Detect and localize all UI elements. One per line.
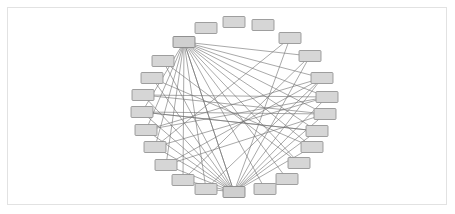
graph-node[interactable] [195, 23, 217, 34]
graph-node[interactable] [254, 184, 276, 195]
circular-graph [0, 0, 455, 214]
graph-edge [154, 96, 314, 113]
graph-node-rect[interactable] [299, 51, 321, 62]
graph-node-rect[interactable] [252, 20, 274, 31]
graph-node-rect[interactable] [195, 184, 217, 195]
graph-node[interactable] [195, 184, 217, 195]
graph-node[interactable] [173, 37, 195, 48]
graph-edge [217, 190, 223, 191]
graph-node-rect[interactable] [288, 158, 310, 169]
graph-node[interactable] [276, 174, 298, 185]
graph-node-rect[interactable] [195, 23, 217, 34]
graph-node-rect[interactable] [306, 126, 328, 137]
diagram-canvas [0, 0, 455, 214]
graph-node-hub-rect[interactable] [173, 37, 195, 48]
graph-node[interactable] [223, 187, 245, 198]
graph-node[interactable] [172, 175, 194, 186]
graph-node-rect[interactable] [276, 174, 298, 185]
graph-node-rect[interactable] [223, 17, 245, 28]
graph-node[interactable] [152, 56, 174, 67]
graph-node-rect[interactable] [132, 90, 154, 101]
graph-node[interactable] [144, 142, 166, 153]
graph-node[interactable] [223, 17, 245, 28]
graph-node[interactable] [311, 73, 333, 84]
graph-edge [195, 46, 316, 93]
graph-node-rect[interactable] [155, 160, 177, 171]
graph-node[interactable] [155, 160, 177, 171]
graph-node-rect[interactable] [254, 184, 276, 195]
graph-node[interactable] [135, 125, 157, 136]
graph-node-rect[interactable] [314, 109, 336, 120]
graph-node[interactable] [141, 73, 163, 84]
graph-node[interactable] [132, 90, 154, 101]
graph-node-rect[interactable] [172, 175, 194, 186]
graph-node-rect[interactable] [311, 73, 333, 84]
graph-node[interactable] [306, 126, 328, 137]
graph-node-rect[interactable] [152, 56, 174, 67]
graph-edge [156, 84, 230, 187]
graph-node[interactable] [279, 33, 301, 44]
graph-edge [176, 84, 312, 160]
graph-node-rect[interactable] [135, 125, 157, 136]
node-layer [131, 17, 338, 198]
graph-node-rect[interactable] [144, 142, 166, 153]
graph-node[interactable] [316, 92, 338, 103]
graph-node-rect[interactable] [279, 33, 301, 44]
graph-node-rect[interactable] [316, 92, 338, 103]
graph-node[interactable] [299, 51, 321, 62]
graph-node[interactable] [301, 142, 323, 153]
graph-node[interactable] [252, 20, 274, 31]
graph-node[interactable] [314, 109, 336, 120]
graph-node-rect[interactable] [131, 107, 153, 118]
graph-node-rect[interactable] [301, 142, 323, 153]
graph-node-rect[interactable] [141, 73, 163, 84]
graph-node-hub-rect[interactable] [223, 187, 245, 198]
graph-node[interactable] [288, 158, 310, 169]
graph-edge [195, 48, 314, 109]
graph-node[interactable] [131, 107, 153, 118]
graph-edge [188, 48, 283, 174]
